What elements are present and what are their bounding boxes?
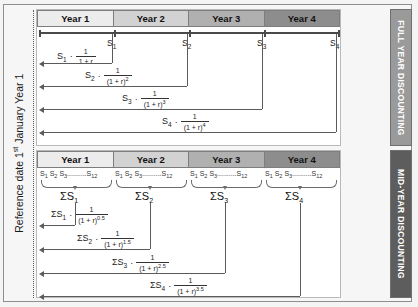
connector-hline-3 bbox=[43, 109, 262, 110]
flag-sub-s2: 2 bbox=[188, 43, 192, 50]
full-year-timeline-axis bbox=[39, 32, 340, 34]
mid-formula-4-operator: · bbox=[168, 282, 171, 291]
mid-connector-hline-2 bbox=[43, 249, 150, 250]
connector-hline-4 bbox=[43, 132, 336, 133]
mid-year-formula-2: ΣS2 · 1 (1 + r)1.5 bbox=[77, 230, 134, 248]
reference-date-prefix: Reference date 1 bbox=[12, 152, 24, 233]
connector-vline-3 bbox=[262, 34, 263, 109]
band-full-year-discounting: FULL YEAR DISCOUNTING bbox=[390, 9, 412, 146]
mid-formula-4-numerator: 1 bbox=[186, 277, 196, 285]
mid-connector-hline-1 bbox=[43, 225, 75, 226]
formula-2-lead: S2 bbox=[85, 70, 95, 82]
connector-hline-2 bbox=[43, 86, 187, 87]
mid-connector-vline-4 bbox=[300, 203, 301, 296]
formula-2-numerator: 1 bbox=[113, 67, 123, 75]
mid-year-cell-1: Year 1 bbox=[37, 151, 114, 168]
connector-arrow-4 bbox=[39, 130, 44, 136]
formula-3-fraction: 1 (1 + r)3 bbox=[141, 90, 169, 108]
mid-formula-4-denominator: (1 + r)3.5 bbox=[174, 285, 207, 295]
mid-year-formula-1: ΣS1 · 1 (1 + r)0.5 bbox=[51, 206, 108, 224]
connector-vline-1 bbox=[112, 34, 113, 63]
mid-connector-arrow-2 bbox=[39, 247, 44, 253]
month-group-year1: S1 S2 S3..........S12 bbox=[40, 170, 97, 179]
formula-4-operator: · bbox=[175, 118, 178, 127]
full-year-cell-3: Year 3 bbox=[189, 10, 265, 27]
mid-year-header-row: Year 1 Year 2 Year 3 Year 4 bbox=[37, 151, 340, 168]
mid-formula-2-denominator: (1 + r)1.5 bbox=[101, 238, 134, 248]
connector-arrow-1 bbox=[39, 61, 44, 67]
mid-year-cell-4: Year 4 bbox=[265, 151, 341, 168]
mid-formula-3-denominator: (1 + r)2.5 bbox=[136, 262, 169, 272]
diagram-page: Reference date 1st January Year 1 FULL Y… bbox=[0, 0, 418, 307]
mid-year-formula-3: ΣS3 · 1 (1 + r)2.5 bbox=[112, 254, 169, 272]
connector-vline-4 bbox=[336, 34, 337, 132]
formula-4-fraction: 1 (1 + r)4 bbox=[181, 113, 209, 131]
formula-2-operator: · bbox=[98, 72, 101, 81]
month-group-year4: S1 S2 S3..........S12 bbox=[265, 170, 322, 179]
connector-arrow-2 bbox=[39, 84, 44, 90]
mid-connector-arrow-1 bbox=[39, 223, 44, 229]
full-year-panel: Year 1 Year 2 Year 3 Year 4 S1 S2 S3 S4 bbox=[36, 9, 341, 146]
mid-connector-vline-1 bbox=[75, 203, 76, 225]
mid-formula-1-denominator: (1 + r)0.5 bbox=[75, 214, 108, 224]
reference-date-suffix: January Year 1 bbox=[12, 74, 24, 147]
full-year-cell-2: Year 2 bbox=[114, 10, 190, 27]
formula-1-numerator: 1 bbox=[81, 48, 91, 56]
formula-2-denominator: (1 + r)2 bbox=[104, 75, 132, 85]
full-year-cell-4: Year 4 bbox=[265, 10, 341, 27]
reference-date-ordinal: st bbox=[12, 146, 19, 151]
connector-vline-2 bbox=[187, 34, 188, 86]
mid-formula-1-operator: · bbox=[69, 211, 72, 220]
mid-year-panel: Year 1 Year 2 Year 3 Year 4 S1 S2 S3....… bbox=[36, 150, 341, 298]
formula-1-lead: S1 bbox=[57, 51, 67, 63]
mid-formula-1-numerator: 1 bbox=[87, 206, 97, 214]
mid-formula-3-numerator: 1 bbox=[148, 254, 158, 262]
full-year-formula-4: S4 · 1 (1 + r)4 bbox=[162, 113, 209, 131]
mid-formula-2-fraction: 1 (1 + r)1.5 bbox=[101, 230, 134, 248]
mid-connector-hline-4 bbox=[43, 296, 300, 297]
formula-4-lead: S4 bbox=[162, 116, 172, 128]
formula-3-denominator: (1 + r)3 bbox=[141, 98, 169, 108]
mid-connector-vline-2 bbox=[150, 203, 151, 249]
mid-connector-hline-3 bbox=[43, 273, 225, 274]
formula-4-denominator: (1 + r)4 bbox=[181, 121, 209, 131]
mid-formula-2-numerator: 1 bbox=[113, 230, 123, 238]
axis-tick-4 bbox=[338, 30, 340, 37]
formula-2-fraction: 1 (1 + r)2 bbox=[104, 67, 132, 85]
mid-formula-1-lead: ΣS1 bbox=[51, 209, 66, 221]
formula-1-operator: · bbox=[70, 52, 73, 61]
formula-3-lead: S3 bbox=[122, 93, 132, 105]
band-mid-year-discounting: MID-YEAR DISCOUNTING bbox=[390, 150, 412, 298]
mid-formula-3-fraction: 1 (1 + r)2.5 bbox=[136, 254, 169, 272]
axis-tick-0 bbox=[39, 30, 41, 37]
connector-hline-1 bbox=[43, 63, 112, 64]
axis-tick-1 bbox=[114, 30, 116, 37]
full-year-formula-3: S3 · 1 (1 + r)3 bbox=[122, 90, 169, 108]
mid-formula-2-operator: · bbox=[95, 235, 98, 244]
flag-sub-s1: 1 bbox=[113, 43, 117, 50]
mid-connector-arrow-4 bbox=[39, 294, 44, 300]
connector-arrow-3 bbox=[39, 107, 44, 113]
formula-3-operator: · bbox=[135, 95, 138, 104]
full-year-cell-1: Year 1 bbox=[37, 10, 114, 27]
mid-formula-1-fraction: 1 (1 + r)0.5 bbox=[75, 206, 108, 224]
full-year-formula-2: S2 · 1 (1 + r)2 bbox=[85, 67, 132, 85]
mid-connector-arrow-3 bbox=[39, 271, 44, 277]
formula-4-numerator: 1 bbox=[190, 113, 200, 121]
mid-formula-4-lead: ΣS4 bbox=[150, 280, 165, 292]
month-group-year2: S1 S2 S3..........S12 bbox=[115, 170, 172, 179]
flag-sub-s3: 3 bbox=[263, 43, 267, 50]
mid-formula-2-lead: ΣS2 bbox=[77, 233, 92, 245]
reference-date-label: Reference date 1st January Year 1 bbox=[6, 8, 30, 298]
reference-vertical-dotted-line bbox=[33, 10, 34, 298]
band-mid-year-label: MID-YEAR DISCOUNTING bbox=[396, 169, 406, 279]
formula-3-numerator: 1 bbox=[150, 90, 160, 98]
mid-connector-vline-3 bbox=[225, 203, 226, 273]
full-year-flag-s4: S4 bbox=[330, 38, 339, 50]
mid-year-month-strip: S1 S2 S3..........S12 S1 S2 S3..........… bbox=[39, 170, 340, 182]
full-year-header-row: Year 1 Year 2 Year 3 Year 4 bbox=[37, 10, 340, 27]
mid-year-cell-2: Year 2 bbox=[114, 151, 190, 168]
month-group-year3: S1 S2 S3..........S12 bbox=[190, 170, 247, 179]
mid-year-cell-3: Year 3 bbox=[189, 151, 265, 168]
mid-formula-3-operator: · bbox=[130, 259, 133, 268]
